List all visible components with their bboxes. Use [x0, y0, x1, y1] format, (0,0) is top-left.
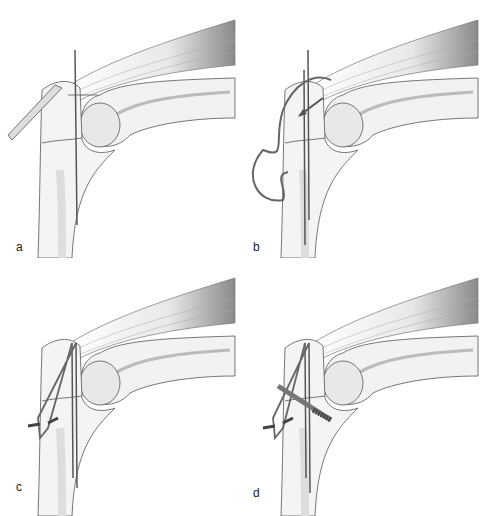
panel-label: a	[16, 240, 23, 254]
panel-b: b	[243, 0, 486, 258]
panel-label: b	[253, 240, 260, 254]
panel-c: c	[0, 258, 243, 516]
k-wire-2	[304, 70, 305, 245]
elbow-illustration-c	[0, 258, 243, 516]
panel-label: d	[253, 486, 260, 500]
elbow-illustration-b	[243, 0, 486, 258]
elbow-illustration-d	[243, 258, 486, 516]
panel-a: a	[0, 0, 243, 258]
panel-d: d	[243, 258, 486, 516]
elbow-illustration-a	[0, 0, 243, 258]
panel-label: c	[16, 480, 22, 494]
k-wire-1	[308, 50, 309, 220]
